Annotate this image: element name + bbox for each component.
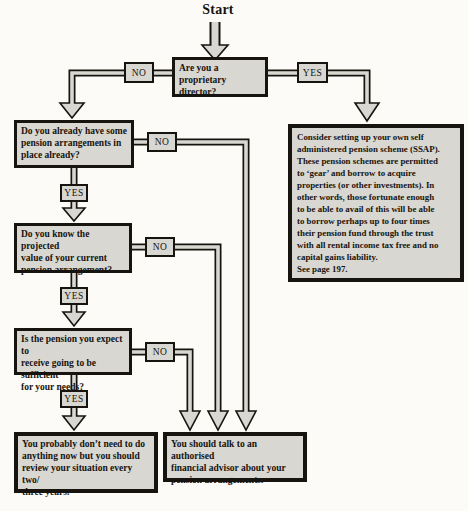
no-badge-proprietary: NO [124, 62, 154, 83]
connector-no-2 [131, 247, 218, 412]
no-badge-existing-arrangements: NO [147, 132, 177, 152]
connector-no-top [72, 73, 174, 104]
question-proprietary-director: Are you a proprietary director? [172, 57, 268, 97]
yes-badge-proprietary: YES [297, 62, 328, 83]
question-existing-arrangements: Do you already have some pension arrange… [14, 120, 134, 168]
yes-badge-existing-arrangements: YES [60, 184, 88, 202]
no-badge-sufficient-pension: NO [145, 342, 175, 362]
no-badge-projected-value: NO [145, 237, 175, 257]
yes-badge-projected-value: YES [60, 287, 88, 305]
question-projected-value: Do you know the projected value of your … [14, 223, 132, 273]
outcome-ssap-info: Consider setting up your own self admini… [288, 124, 464, 282]
outcome-review: You probably don’t need to do anything n… [14, 432, 158, 493]
start-label: Start [192, 2, 244, 18]
yes-badge-sufficient-pension: YES [60, 390, 88, 408]
question-sufficient-pension: Is the pension you expect to receive goi… [14, 328, 132, 375]
outcome-financial-advisor: You should talk to an authorised financi… [163, 432, 307, 482]
pension-flowchart: Start Are you a proprietary director? Do… [0, 0, 468, 511]
